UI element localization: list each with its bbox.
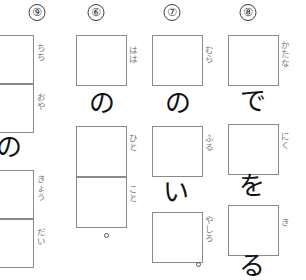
kanji-box[interactable] xyxy=(0,170,34,219)
kanji-box[interactable] xyxy=(228,124,279,175)
practice-column-7: ⑧ か た な で に く を き る xyxy=(228,0,304,269)
practice-column-9: ⑥ は は の ひ と こ と xyxy=(76,0,152,269)
kanji-box[interactable] xyxy=(0,35,34,84)
kanji-box[interactable] xyxy=(152,126,203,177)
kanji-box[interactable] xyxy=(0,219,34,268)
furigana-reading: ひ と xyxy=(128,134,139,152)
furigana-reading: や し ろ xyxy=(204,216,215,244)
furigana-char: く xyxy=(280,141,291,150)
handwritten-kana: の xyxy=(161,90,195,116)
furigana-char: い xyxy=(36,237,47,246)
period-mark xyxy=(104,233,109,238)
furigana-char: う xyxy=(36,193,47,202)
column-number-7: ⑧ xyxy=(240,4,257,21)
furigana-reading: だ い xyxy=(36,228,47,246)
furigana-reading: か た な xyxy=(280,41,291,69)
handwritten-kana: る xyxy=(235,253,269,279)
furigana-char: は xyxy=(128,55,139,64)
kanji-box[interactable] xyxy=(76,35,127,86)
practice-column-10: ⑨ ち ち お や の き ょ う だ い xyxy=(0,0,66,269)
kanji-box[interactable] xyxy=(0,84,34,133)
kanji-box[interactable] xyxy=(76,126,127,177)
furigana-reading: こ と xyxy=(128,185,139,203)
column-number-8: ⑦ xyxy=(164,4,181,21)
furigana-char: や xyxy=(36,102,47,111)
furigana-char: ち xyxy=(36,53,47,62)
furigana-reading: き ょ う xyxy=(36,175,47,203)
furigana-reading: ち ち xyxy=(36,44,47,62)
furigana-reading: お や xyxy=(36,93,47,111)
furigana-reading: む ら xyxy=(204,46,215,64)
kanji-box[interactable] xyxy=(152,35,203,86)
kanji-box[interactable] xyxy=(228,205,279,256)
furigana-reading: は は xyxy=(128,46,139,64)
handwritten-kana: を xyxy=(235,173,269,199)
furigana-reading: き xyxy=(280,218,291,227)
furigana-char: ろ xyxy=(204,234,215,243)
furigana-char: ら xyxy=(204,55,215,64)
furigana-reading: ふ る xyxy=(204,134,215,152)
practice-column-8: ⑦ む ら の ふ る い や し ろ xyxy=(152,0,228,269)
furigana-char: な xyxy=(280,59,291,68)
furigana-char: き xyxy=(280,218,291,227)
period-mark xyxy=(196,262,201,267)
furigana-char: る xyxy=(204,143,215,152)
handwritten-kana: で xyxy=(236,88,270,114)
column-number-9: ⑥ xyxy=(88,4,105,21)
furigana-reading: に く xyxy=(280,132,291,150)
kanji-box[interactable] xyxy=(228,35,279,86)
column-number-10: ⑨ xyxy=(29,4,46,21)
handwritten-kana: の xyxy=(0,134,26,160)
kanji-box[interactable] xyxy=(152,212,203,263)
furigana-char: と xyxy=(128,143,139,152)
furigana-char: と xyxy=(128,194,139,203)
kanji-box[interactable] xyxy=(76,177,127,228)
handwritten-kana: の xyxy=(85,90,119,116)
handwritten-kana: い xyxy=(159,179,193,205)
